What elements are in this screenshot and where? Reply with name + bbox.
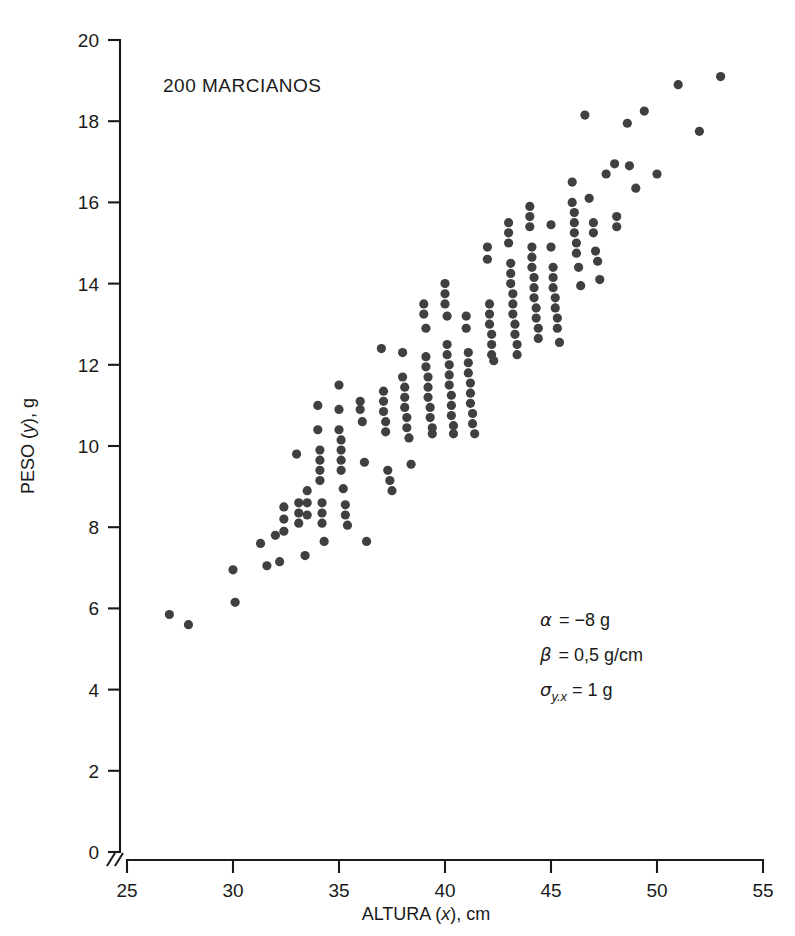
data-point bbox=[612, 222, 621, 231]
x-axis-break-mark bbox=[107, 853, 123, 866]
x-tick-label: 30 bbox=[222, 880, 243, 901]
data-point bbox=[356, 405, 365, 414]
data-point bbox=[443, 350, 452, 359]
data-point bbox=[419, 299, 428, 308]
x-tick-label: 40 bbox=[434, 880, 455, 901]
data-point bbox=[379, 387, 388, 396]
data-point bbox=[570, 218, 579, 227]
data-point bbox=[464, 368, 473, 377]
data-point bbox=[508, 309, 517, 318]
data-point bbox=[466, 399, 475, 408]
data-point bbox=[303, 498, 312, 507]
data-point bbox=[449, 421, 458, 430]
beta-symbol: β bbox=[539, 644, 552, 665]
data-point bbox=[315, 466, 324, 475]
data-point bbox=[303, 486, 312, 495]
data-point bbox=[549, 273, 558, 282]
data-point bbox=[612, 212, 621, 221]
data-point bbox=[398, 372, 407, 381]
data-point bbox=[487, 330, 496, 339]
data-point bbox=[279, 514, 288, 523]
data-point bbox=[406, 460, 415, 469]
data-point bbox=[464, 358, 473, 367]
data-point bbox=[292, 450, 301, 459]
data-point bbox=[443, 311, 452, 320]
data-point bbox=[485, 299, 494, 308]
data-point bbox=[595, 275, 604, 284]
data-point bbox=[428, 429, 437, 438]
y-tick-label: 8 bbox=[88, 517, 99, 538]
data-point bbox=[529, 283, 538, 292]
data-point bbox=[358, 417, 367, 426]
data-point bbox=[525, 212, 534, 221]
data-point bbox=[315, 476, 324, 485]
data-point bbox=[381, 417, 390, 426]
data-point bbox=[294, 498, 303, 507]
y-tick-label: 6 bbox=[88, 598, 99, 619]
data-point bbox=[445, 381, 454, 390]
data-point bbox=[652, 169, 661, 178]
data-point bbox=[576, 281, 585, 290]
data-point bbox=[262, 561, 271, 570]
data-point bbox=[419, 309, 428, 318]
data-point bbox=[466, 378, 475, 387]
data-point bbox=[402, 423, 411, 432]
data-point bbox=[529, 293, 538, 302]
data-point bbox=[360, 458, 369, 467]
data-point bbox=[381, 427, 390, 436]
data-point bbox=[489, 356, 498, 365]
x-axis-title: ALTURA (x), cm bbox=[362, 904, 491, 924]
data-point bbox=[341, 510, 350, 519]
annotation-sigma: σy.x= 1 g bbox=[540, 679, 613, 704]
data-point bbox=[279, 527, 288, 536]
data-point bbox=[483, 242, 492, 251]
data-point bbox=[339, 484, 348, 493]
data-point bbox=[313, 401, 322, 410]
data-point bbox=[508, 299, 517, 308]
data-point bbox=[343, 521, 352, 530]
x-tick-label: 25 bbox=[116, 880, 137, 901]
data-point bbox=[317, 498, 326, 507]
data-point bbox=[421, 362, 430, 371]
data-point bbox=[468, 419, 477, 428]
data-point bbox=[549, 283, 558, 292]
data-point bbox=[462, 324, 471, 333]
data-point bbox=[445, 360, 454, 369]
data-point bbox=[510, 320, 519, 329]
y-tick-label: 20 bbox=[78, 30, 99, 51]
data-point bbox=[337, 466, 346, 475]
data-point bbox=[504, 228, 513, 237]
data-point bbox=[546, 220, 555, 229]
data-point bbox=[387, 486, 396, 495]
data-point bbox=[695, 127, 704, 136]
data-point bbox=[275, 557, 284, 566]
data-point bbox=[426, 403, 435, 412]
data-point bbox=[294, 508, 303, 517]
data-point bbox=[334, 381, 343, 390]
data-point bbox=[466, 389, 475, 398]
data-point bbox=[553, 324, 562, 333]
data-point bbox=[315, 456, 324, 465]
data-point bbox=[379, 397, 388, 406]
data-point bbox=[279, 502, 288, 511]
y-tick-label: 18 bbox=[78, 111, 99, 132]
data-point bbox=[625, 161, 634, 170]
data-point bbox=[674, 80, 683, 89]
data-point bbox=[400, 383, 409, 392]
y-tick-labels: 02468101214161820 bbox=[78, 30, 100, 863]
data-point bbox=[640, 106, 649, 115]
data-point bbox=[527, 242, 536, 251]
data-point bbox=[549, 263, 558, 272]
data-point bbox=[165, 610, 174, 619]
data-point bbox=[468, 409, 477, 418]
data-point bbox=[512, 350, 521, 359]
data-point bbox=[400, 393, 409, 402]
data-point bbox=[483, 255, 492, 264]
data-point bbox=[470, 429, 479, 438]
data-point bbox=[337, 445, 346, 454]
y-tick-label: 12 bbox=[78, 355, 99, 376]
data-point bbox=[303, 510, 312, 519]
data-point bbox=[546, 242, 555, 251]
data-point bbox=[485, 320, 494, 329]
data-point bbox=[337, 456, 346, 465]
